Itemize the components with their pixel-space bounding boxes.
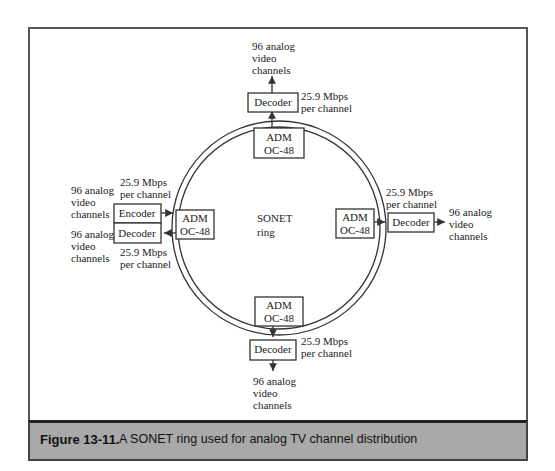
- svg-text:Decoder: Decoder: [254, 96, 292, 108]
- svg-text:25.9 Mbps: 25.9 Mbps: [386, 186, 433, 198]
- svg-text:25.9 Mbps: 25.9 Mbps: [120, 176, 167, 188]
- svg-text:ADM: ADM: [342, 211, 368, 223]
- svg-text:ADM: ADM: [266, 299, 292, 311]
- svg-text:per channel: per channel: [120, 188, 171, 200]
- svg-text:OC-48: OC-48: [264, 312, 294, 324]
- figure-caption-band: Figure 13-11. A SONET ring used for anal…: [28, 420, 528, 461]
- svg-text:per channel: per channel: [120, 258, 171, 270]
- svg-text:Decoder: Decoder: [392, 216, 430, 228]
- top-node: ADM OC-48 Decoder 96 analog video channe…: [248, 40, 352, 158]
- svg-text:96 analog: 96 analog: [449, 206, 493, 218]
- ring-label-1: SONET: [257, 212, 293, 224]
- svg-text:video: video: [449, 218, 474, 230]
- svg-text:Decoder: Decoder: [118, 227, 156, 239]
- svg-text:per channel: per channel: [386, 198, 437, 210]
- bottom-node: ADM OC-48 Decoder 25.9 Mbps per channel …: [250, 297, 352, 411]
- svg-text:Encoder: Encoder: [119, 207, 156, 219]
- svg-text:channels: channels: [252, 64, 290, 76]
- svg-text:OC-48: OC-48: [264, 144, 294, 156]
- ring-label-2: ring: [257, 226, 275, 238]
- svg-text:per channel: per channel: [301, 102, 352, 114]
- svg-text:Decoder: Decoder: [254, 343, 292, 355]
- svg-text:96 analog: 96 analog: [252, 40, 296, 52]
- svg-text:96 analog: 96 analog: [253, 375, 297, 387]
- svg-text:96 analog: 96 analog: [71, 184, 115, 196]
- left-node: ADM OC-48 Encoder Decoder 25.9 Mbps per …: [71, 176, 214, 270]
- svg-text:channels: channels: [253, 399, 291, 411]
- svg-text:video: video: [252, 52, 277, 64]
- svg-text:25.9 Mbps: 25.9 Mbps: [120, 246, 167, 258]
- svg-text:video: video: [253, 387, 278, 399]
- svg-text:channels: channels: [449, 230, 487, 242]
- svg-text:25.9 Mbps: 25.9 Mbps: [301, 90, 348, 102]
- svg-text:OC-48: OC-48: [340, 224, 370, 236]
- svg-text:video: video: [71, 196, 96, 208]
- svg-text:25.9 Mbps: 25.9 Mbps: [301, 335, 348, 347]
- right-node: ADM OC-48 Decoder 25.9 Mbps per channel …: [336, 186, 493, 242]
- svg-text:ADM: ADM: [182, 212, 208, 224]
- sonet-ring-diagram: SONET ring ADM OC-48 Decoder 96 analog v…: [0, 0, 555, 471]
- svg-text:per channel: per channel: [301, 347, 352, 359]
- svg-text:channels: channels: [71, 208, 109, 220]
- figure-caption: A SONET ring used for analog TV channel …: [119, 432, 417, 446]
- svg-text:96 analog: 96 analog: [71, 228, 115, 240]
- svg-text:video: video: [71, 240, 96, 252]
- svg-text:channels: channels: [71, 252, 109, 264]
- svg-text:ADM: ADM: [266, 131, 292, 143]
- svg-text:OC-48: OC-48: [180, 225, 210, 237]
- figure-number: Figure 13-11.: [40, 432, 119, 447]
